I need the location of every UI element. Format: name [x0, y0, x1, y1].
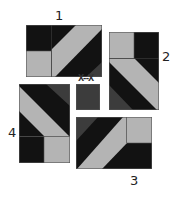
- label-block-1: 1: [55, 9, 63, 22]
- quilt-block-diagram: 1 2 X--X 4: [0, 0, 178, 199]
- quilt-block-3: [76, 117, 152, 169]
- label-block-3: 3: [130, 174, 138, 187]
- label-block-4: 4: [8, 126, 16, 139]
- quilt-block-2: [109, 32, 159, 110]
- quilt-block-1: [26, 25, 102, 77]
- label-block-2: 2: [162, 50, 170, 63]
- center-seam-mark: X--X: [78, 75, 94, 83]
- quilt-block-4: [19, 84, 70, 163]
- center-square: [76, 84, 100, 110]
